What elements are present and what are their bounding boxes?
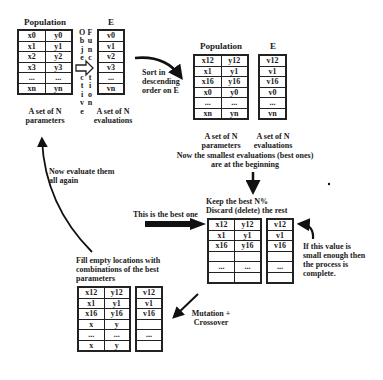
table-cell: x16 (194, 77, 221, 88)
table-cell: x0 (194, 87, 221, 98)
table-row: x12y12 (208, 219, 261, 230)
table-cell: v16 (259, 77, 286, 88)
table-cell (267, 251, 293, 262)
table-cell: y1 (45, 41, 72, 52)
table-row: v1 (98, 41, 124, 52)
table-cell: ... (104, 330, 130, 341)
table-row: xy (78, 340, 130, 351)
table-cell: v16 (136, 309, 162, 320)
title-line: Discard (delete) the rest (206, 206, 287, 215)
table-cell: x2 (18, 52, 45, 63)
table-cell: x1 (208, 230, 235, 241)
table-row: xnyn (194, 108, 248, 119)
stage1-e-table: v0 v1 v2 v3 ... vn (97, 29, 125, 95)
table-cell (208, 251, 235, 262)
loop-label: Now evaluate them all again (49, 167, 114, 185)
table-row: ...... (194, 98, 248, 109)
stage1-population-caption: A set of N parameters (12, 107, 78, 125)
note-line: are at the beginning (170, 160, 320, 169)
caption-line: evaluations (252, 141, 294, 150)
table-row: ... (267, 262, 293, 273)
title-line: combinations of the best (76, 265, 160, 274)
table-row: x3y3 (18, 62, 72, 73)
table-row: v16 (267, 241, 293, 252)
table-cell: y12 (235, 219, 262, 230)
stage3-title: Keep the best N% Discard (delete) the re… (206, 197, 287, 215)
table-cell: vn (259, 108, 286, 119)
label-line: all again (49, 176, 114, 185)
table-cell: x1 (78, 298, 104, 309)
table-cell: ... (78, 330, 104, 341)
table-cell: ... (267, 262, 293, 273)
stage2-note: Now the smallest evaluations (best ones)… (170, 151, 320, 169)
table-cell: v1 (98, 41, 124, 52)
table-cell: y16 (221, 77, 248, 88)
table-row: x16y16 (194, 77, 248, 88)
table-row: ... (259, 98, 286, 109)
table-cell: v16 (267, 241, 293, 252)
table-row (136, 340, 162, 351)
table-cell: y16 (235, 241, 262, 252)
table-cell: x1 (18, 41, 45, 52)
table-row: v1 (136, 298, 162, 309)
table-cell: v1 (259, 66, 286, 77)
table-cell: v0 (259, 87, 286, 98)
table-row (136, 319, 162, 330)
table-row: ... (136, 330, 162, 341)
table-cell: ... (98, 73, 124, 84)
caption-line: A set of N (190, 132, 252, 141)
letter: c (86, 54, 94, 62)
table-row: x1y1 (208, 230, 261, 241)
table-cell: xn (194, 108, 221, 119)
table-row: ...... (78, 330, 130, 341)
table-row: x1y1 (194, 66, 248, 77)
table-row: v3 (98, 62, 124, 73)
table-cell: v1 (136, 298, 162, 309)
table-row (267, 272, 293, 283)
caption-line: evaluations (88, 116, 138, 125)
table-row (267, 251, 293, 262)
stage2-population-caption: A set of N parameters (190, 132, 252, 150)
title-line: Keep the best N% (206, 197, 287, 206)
table-cell: y16 (104, 309, 130, 320)
table-row: v12 (267, 219, 293, 230)
stage1-population-table: x0y0 x1y1 x2y2 x3y3 ...... xnyn (17, 29, 73, 95)
letter: e (78, 54, 86, 62)
stage3-population-table: x12y12 x1y1 x16y16 ...... (207, 218, 262, 284)
table-cell: v1 (267, 230, 293, 241)
table-cell (208, 272, 235, 283)
table-cell: v12 (267, 219, 293, 230)
table-cell: x16 (208, 241, 235, 252)
table-cell (235, 251, 262, 262)
stage2-population-title: Population (193, 42, 249, 51)
stage2-e-caption: A set of N evaluations (252, 132, 294, 150)
function-label-2: t i o n (86, 74, 94, 108)
loop-arrow-icon (42, 140, 92, 252)
table-cell: x (78, 319, 104, 330)
stray-dot (328, 183, 330, 185)
objective-label-2: c t i v e (78, 74, 86, 116)
stop-check-arrow-icon (301, 224, 313, 239)
table-row: x1y1 (78, 298, 130, 309)
table-cell (267, 272, 293, 283)
table-row: x1y1 (18, 41, 72, 52)
table-cell: ... (235, 262, 262, 273)
caption-line: A set of N (252, 132, 294, 141)
table-cell: ... (136, 330, 162, 341)
table-cell: y0 (45, 30, 72, 41)
label-line: order on E (142, 86, 180, 95)
table-cell: ... (259, 98, 286, 109)
table-row: v1 (259, 66, 286, 77)
table-cell: ... (194, 98, 221, 109)
label-line: Mutation + (186, 309, 236, 318)
table-cell: x12 (194, 55, 221, 66)
table-cell: y1 (221, 66, 248, 77)
table-row: x0y0 (18, 30, 72, 41)
table-row: vn (259, 108, 286, 119)
table-cell: y3 (45, 62, 72, 73)
table-cell: x (78, 340, 104, 351)
table-cell: y12 (221, 55, 248, 66)
table-row: vn (98, 83, 124, 94)
table-row: x2y2 (18, 52, 72, 63)
table-cell: v0 (98, 30, 124, 41)
